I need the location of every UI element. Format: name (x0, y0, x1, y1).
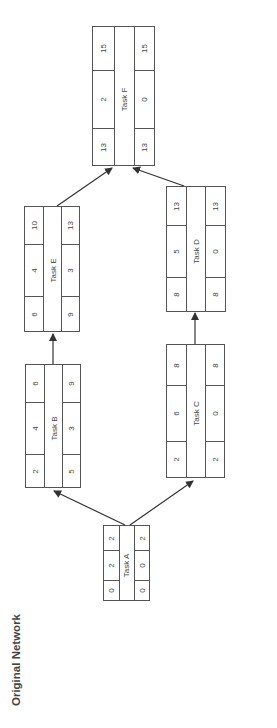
duration: 4 (30, 426, 39, 430)
edge-d-f (133, 168, 184, 186)
early-finish: 8 (172, 363, 181, 367)
task-node-f: 15 2 13 Task F 15 0 13 (92, 26, 155, 166)
early-start: 13 (99, 143, 108, 152)
task-name: Task E (48, 258, 57, 282)
task-name: Task B (49, 416, 58, 440)
task-name: Task D (192, 239, 201, 263)
late-finish: 13 (66, 221, 75, 230)
early-finish: 2 (107, 536, 116, 540)
duration: 4 (29, 268, 38, 272)
early-start: 8 (172, 292, 181, 296)
late-finish: 9 (67, 381, 76, 385)
late-start: 5 (67, 469, 76, 473)
late-finish: 8 (210, 363, 219, 367)
slack: 0 (210, 411, 219, 415)
slack: 3 (67, 426, 76, 430)
task-name: Task F (120, 87, 129, 111)
duration: 2 (99, 97, 108, 101)
early-finish: 10 (30, 221, 39, 230)
late-start: 8 (211, 292, 220, 296)
edge-a-c (130, 481, 193, 525)
task-node-d: 13 5 8 Task D 13 0 8 (166, 186, 226, 312)
task-node-c: 8 6 2 Task C 8 0 2 (166, 344, 225, 478)
edge-e-f (57, 168, 112, 206)
slack: 3 (66, 268, 75, 272)
task-node-e: 10 4 6 Task E 13 3 9 (24, 206, 80, 332)
early-start: 2 (30, 469, 39, 473)
early-start: 0 (107, 588, 116, 592)
early-start: 2 (172, 457, 181, 461)
late-start: 9 (66, 312, 75, 316)
duration: 2 (107, 563, 116, 567)
early-finish: 15 (99, 44, 108, 53)
early-finish: 13 (172, 202, 181, 211)
late-start: 2 (210, 457, 219, 461)
late-finish: 15 (140, 44, 149, 53)
slack: 0 (137, 563, 146, 567)
late-start: 0 (137, 588, 146, 592)
task-node-b: 6 4 2 Task B 9 3 5 (25, 364, 81, 488)
edge-a-b (54, 491, 125, 525)
task-node-a: 2 2 0 Task A 2 0 0 (103, 525, 150, 601)
early-finish: 6 (30, 381, 39, 385)
task-name: Task C (192, 401, 201, 425)
task-name: Task A (123, 553, 132, 577)
duration: 5 (172, 249, 181, 253)
duration: 6 (172, 411, 181, 415)
late-start: 13 (140, 143, 149, 152)
early-start: 6 (29, 312, 38, 316)
slack: 0 (140, 97, 149, 101)
late-finish: 13 (211, 202, 220, 211)
slack: 0 (211, 249, 220, 253)
late-finish: 2 (137, 536, 146, 540)
